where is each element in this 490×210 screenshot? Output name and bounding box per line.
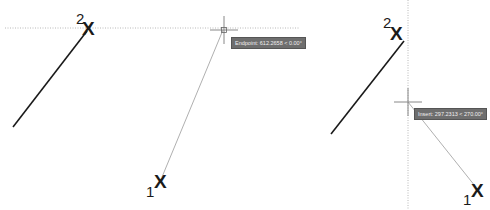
point-2-marker[interactable]: X <box>390 24 403 43</box>
left-drawing-canvas <box>0 0 300 210</box>
solid-line-segment[interactable] <box>13 31 87 127</box>
rubber-band-line <box>162 30 223 177</box>
point-1-marker[interactable]: X <box>471 181 484 200</box>
solid-line-segment[interactable] <box>331 41 404 134</box>
endpoint-tooltip: Endpoint: 612.2658 < 0.00° <box>231 37 306 49</box>
left-drawing-panel[interactable]: 2 X 1 X Endpoint: 612.2658 < 0.00° <box>0 0 300 210</box>
point-2-marker[interactable]: X <box>82 19 95 38</box>
point-1-marker[interactable]: X <box>154 172 167 191</box>
right-drawing-panel[interactable]: 2 X 1 X Insert: 297.2313 < 270.00° <box>300 0 490 210</box>
insert-tooltip: Insert: 297.2313 < 270.00° <box>414 108 487 120</box>
